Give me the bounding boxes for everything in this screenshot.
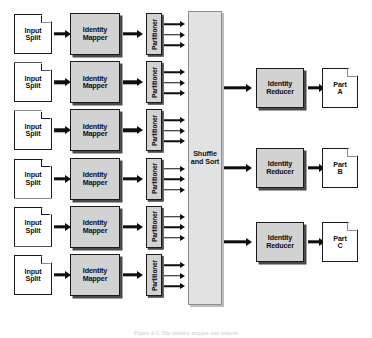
arrow-mapper-to-partitioner xyxy=(123,270,143,280)
identity-mapper: IdentityMapper xyxy=(70,254,120,296)
arrow-head xyxy=(180,176,185,182)
arrow-partitioner-to-shuffle xyxy=(164,115,186,125)
arrow-head xyxy=(180,187,185,193)
arrow-shuffle-to-reducer xyxy=(224,83,252,93)
partitioner: Partitioner xyxy=(146,158,162,200)
page-fold-icon xyxy=(41,208,51,216)
shuffle-label-line2: and Sort xyxy=(191,157,219,166)
figure-caption: Figure 4-3. The identity mapper and redu… xyxy=(0,330,372,336)
partitioner-label: Partitioner xyxy=(151,163,158,194)
input-split-label: InputSplit xyxy=(25,75,42,90)
identity-reducer-label-line2: Reducer xyxy=(266,241,294,250)
mapreduce-dataflow-diagram: InputSplitIdentityMapperPartitionerInput… xyxy=(0,0,372,338)
arrow-shaft xyxy=(164,168,181,170)
input-split: InputSplit xyxy=(14,62,52,102)
arrow-partitioner-to-shuffle xyxy=(164,19,186,29)
arrow-mapper-to-partitioner xyxy=(123,174,143,184)
output-part-label-line2: A xyxy=(337,87,342,96)
arrow-mapper-to-partitioner xyxy=(123,77,143,87)
output-part: PartA xyxy=(322,68,358,108)
arrow-head xyxy=(180,69,185,75)
arrow-shaft xyxy=(164,189,181,191)
output-part-label: PartC xyxy=(333,235,346,250)
output-part-label-line2: C xyxy=(337,241,342,250)
output-part-label-line2: B xyxy=(337,167,342,176)
arrow-head xyxy=(180,273,185,279)
arrow-shaft xyxy=(164,23,181,25)
arrow-head xyxy=(180,21,185,27)
arrow-head xyxy=(137,126,143,134)
arrow-head xyxy=(246,238,252,246)
arrow-shaft xyxy=(164,71,181,73)
arrow-shaft xyxy=(224,166,247,169)
arrow-partitioner-to-shuffle xyxy=(164,185,186,195)
page-fold-icon xyxy=(41,15,51,23)
identity-reducer: IdentityReducer xyxy=(256,148,304,188)
arrow-partitioner-to-shuffle xyxy=(164,67,186,77)
arrow-head xyxy=(137,78,143,86)
arrow-shuffle-to-reducer xyxy=(224,163,252,173)
partitioner-label: Partitioner xyxy=(151,211,158,242)
arrow-shaft xyxy=(164,227,181,229)
arrow-shaft xyxy=(164,141,181,143)
identity-mapper: IdentityMapper xyxy=(70,206,120,248)
partitioner: Partitioner xyxy=(146,13,162,55)
arrow-shaft xyxy=(164,120,181,122)
arrow-split-to-mapper xyxy=(54,174,71,184)
arrow-head xyxy=(180,117,185,123)
arrow-partitioner-to-shuffle xyxy=(164,260,186,270)
page-fold-icon xyxy=(41,160,51,168)
arrow-shaft xyxy=(224,240,247,243)
arrow-head xyxy=(180,32,185,38)
arrow-shaft xyxy=(164,285,181,287)
arrow-head xyxy=(137,271,143,279)
arrow-shaft xyxy=(164,92,181,94)
arrow-head xyxy=(246,84,252,92)
input-split: InputSplit xyxy=(14,255,52,295)
arrow-partitioner-to-shuffle xyxy=(164,233,186,243)
shuffle-and-sort-box: Shuffleand Sort xyxy=(188,11,222,305)
arrow-partitioner-to-shuffle xyxy=(164,222,186,232)
partitioner-label: Partitioner xyxy=(151,67,158,98)
arrow-split-to-mapper xyxy=(54,125,71,135)
arrow-head xyxy=(180,214,185,220)
arrow-partitioner-to-shuffle xyxy=(164,30,186,40)
arrow-mapper-to-partitioner xyxy=(123,125,143,135)
identity-mapper-label-line2: Mapper xyxy=(83,33,108,42)
arrow-partitioner-to-shuffle xyxy=(164,212,186,222)
arrow-partitioner-to-shuffle xyxy=(164,271,186,281)
output-part: PartC xyxy=(322,222,358,262)
arrow-split-to-mapper xyxy=(54,270,71,280)
input-split-label: InputSplit xyxy=(25,123,42,138)
arrow-partitioner-to-shuffle xyxy=(164,174,186,184)
arrow-shaft xyxy=(164,178,181,180)
page-fold-icon xyxy=(347,149,357,157)
arrow-head xyxy=(180,235,185,241)
arrow-partitioner-to-shuffle xyxy=(164,88,186,98)
identity-mapper-label-line2: Mapper xyxy=(83,274,108,283)
page-fold-icon xyxy=(347,223,357,231)
arrow-shaft xyxy=(164,44,181,46)
output-part-label: PartA xyxy=(333,81,346,96)
page-fold-icon xyxy=(347,69,357,77)
input-split-label: InputSplit xyxy=(25,268,42,283)
arrow-head xyxy=(180,262,185,268)
identity-mapper: IdentityMapper xyxy=(70,109,120,151)
arrow-partitioner-to-shuffle xyxy=(164,126,186,136)
arrow-shaft xyxy=(164,34,181,36)
arrow-partitioner-to-shuffle xyxy=(164,136,186,146)
arrow-shaft xyxy=(164,237,181,239)
partitioner-label: Partitioner xyxy=(151,19,158,50)
arrow-head xyxy=(137,30,143,38)
input-split-label-line2: Split xyxy=(26,81,41,90)
arrow-head xyxy=(180,166,185,172)
arrow-shuffle-to-reducer xyxy=(224,237,252,247)
arrow-shaft xyxy=(164,82,181,84)
partitioner: Partitioner xyxy=(146,109,162,151)
identity-mapper-label-line2: Mapper xyxy=(83,226,108,235)
arrow-split-to-mapper xyxy=(54,222,71,232)
arrow-mapper-to-partitioner xyxy=(123,222,143,232)
arrow-head xyxy=(246,164,252,172)
arrow-head xyxy=(180,283,185,289)
partitioner: Partitioner xyxy=(146,206,162,248)
